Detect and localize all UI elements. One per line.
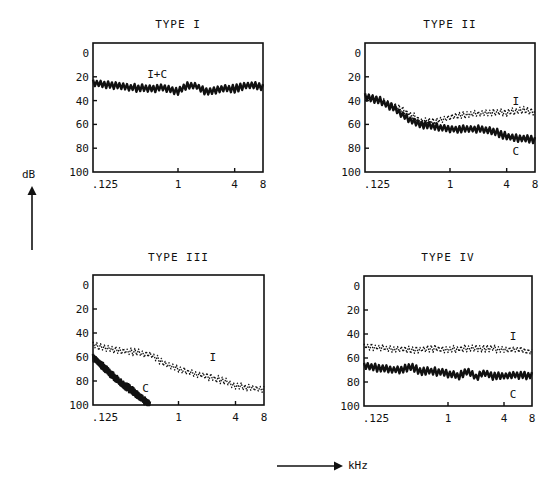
x-tick-label: 8 <box>260 178 267 191</box>
plot-frame <box>93 43 263 172</box>
y-tick-label: 100 <box>61 166 89 179</box>
curve-i <box>364 343 532 354</box>
y-axis-unit-label: dB <box>22 168 35 181</box>
y-tick-label: 40 <box>333 94 361 107</box>
plot-area: IC <box>93 275 264 405</box>
y-tick-label: 60 <box>332 352 360 365</box>
curve-label: C <box>512 145 519 158</box>
x-tick-label: 1 <box>447 178 454 191</box>
x-tick-label: 4 <box>232 411 239 424</box>
curve-c <box>93 354 150 405</box>
curve-i-plus-c <box>93 80 263 95</box>
y-tick-label: 0 <box>61 47 89 60</box>
y-tick-label: 60 <box>61 351 89 364</box>
x-tick-label: 8 <box>261 411 268 424</box>
y-tick-label: 80 <box>333 142 361 155</box>
curve-label: C <box>142 382 149 395</box>
y-tick-label: 60 <box>61 118 89 131</box>
curve-label: I <box>510 330 517 343</box>
y-tick-label: 100 <box>61 399 89 412</box>
curve-c <box>364 363 532 380</box>
panel-title: TYPE IV <box>421 251 474 264</box>
plot-frame <box>364 276 532 406</box>
y-tick-label: 20 <box>333 70 361 83</box>
y-tick-label: 80 <box>61 142 89 155</box>
y-tick-label: 20 <box>61 70 89 83</box>
y-tick-label: 20 <box>61 303 89 316</box>
x-tick-label: .125 <box>363 412 390 425</box>
panel-title: TYPE III <box>148 251 209 264</box>
y-tick-label: 0 <box>332 280 360 293</box>
x-tick-label: .125 <box>92 411 119 424</box>
x-tick-label: 8 <box>532 178 539 191</box>
y-tick-label: 40 <box>332 328 360 341</box>
x-tick-label: 1 <box>445 412 452 425</box>
y-axis-arrow-icon <box>26 186 38 252</box>
x-tick-label: 4 <box>231 178 238 191</box>
curve-label: I <box>512 95 519 108</box>
y-tick-label: 0 <box>61 279 89 292</box>
x-tick-label: 4 <box>501 412 508 425</box>
panel-title: TYPE II <box>423 18 476 31</box>
y-tick-label: 80 <box>332 376 360 389</box>
x-axis-unit-label: kHz <box>348 459 368 472</box>
x-tick-label: 1 <box>175 411 182 424</box>
x-axis-arrow-icon <box>277 460 343 472</box>
x-tick-label: 8 <box>529 412 536 425</box>
curve-label: C <box>510 388 517 401</box>
x-tick-label: .125 <box>364 178 391 191</box>
panel-title: TYPE I <box>155 18 201 31</box>
x-tick-label: 1 <box>175 178 182 191</box>
plot-area: IC <box>365 43 535 172</box>
y-tick-label: 80 <box>61 375 89 388</box>
y-tick-label: 40 <box>61 327 89 340</box>
curve-label: I <box>209 351 216 364</box>
y-tick-label: 100 <box>332 400 360 413</box>
x-tick-label: .125 <box>92 178 119 191</box>
y-tick-label: 20 <box>332 304 360 317</box>
y-tick-label: 60 <box>333 118 361 131</box>
x-tick-label: 4 <box>503 178 510 191</box>
y-tick-label: 100 <box>333 166 361 179</box>
curve-label: I+C <box>147 68 167 81</box>
plot-area: IC <box>364 276 532 406</box>
y-tick-label: 40 <box>61 94 89 107</box>
plot-area: I+C <box>93 43 263 172</box>
y-tick-label: 0 <box>333 47 361 60</box>
